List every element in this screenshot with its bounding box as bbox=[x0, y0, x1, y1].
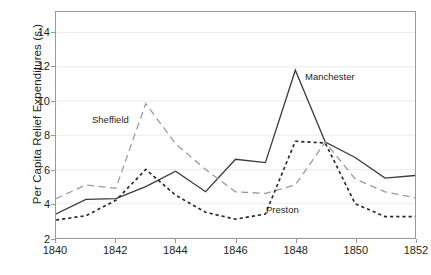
series-lines bbox=[56, 12, 415, 238]
x-tick-label: 1846 bbox=[206, 244, 266, 256]
series-line-preston bbox=[56, 141, 415, 220]
x-tick-label: 1852 bbox=[386, 244, 431, 256]
x-tick-label: 1840 bbox=[25, 244, 85, 256]
x-tick-label: 1844 bbox=[145, 244, 205, 256]
relief-expenditures-line-chart: Per Capita Relief Expenditures (s.) 2468… bbox=[0, 0, 431, 275]
series-line-manchester bbox=[56, 70, 415, 214]
x-axis-tick-labels: 1840184218441846184818501852 bbox=[55, 241, 416, 263]
x-tick-mark bbox=[175, 239, 176, 243]
x-tick-label: 1848 bbox=[266, 244, 326, 256]
x-tick-mark bbox=[236, 239, 237, 243]
series-label-sheffield: Sheffield bbox=[92, 114, 129, 125]
x-tick-label: 1850 bbox=[326, 244, 386, 256]
x-tick-mark bbox=[416, 239, 417, 243]
series-label-manchester: Manchester bbox=[305, 71, 355, 82]
x-tick-mark bbox=[55, 239, 56, 243]
plot-area bbox=[55, 11, 416, 239]
y-axis-tick-marks bbox=[0, 11, 56, 239]
x-tick-mark bbox=[115, 239, 116, 243]
x-tick-mark bbox=[296, 239, 297, 243]
x-tick-mark bbox=[356, 239, 357, 243]
series-label-preston: Preston bbox=[266, 204, 299, 215]
x-tick-label: 1842 bbox=[85, 244, 145, 256]
